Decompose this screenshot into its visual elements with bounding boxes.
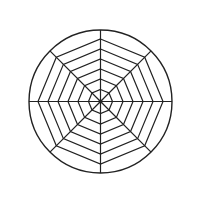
spoke-line <box>101 102 152 153</box>
spoke-line <box>101 51 152 102</box>
canvas <box>0 0 201 204</box>
radar-grid <box>0 0 201 204</box>
spoke-line <box>50 102 101 153</box>
spoke-line <box>50 51 101 102</box>
center-hub-dot <box>99 100 103 104</box>
